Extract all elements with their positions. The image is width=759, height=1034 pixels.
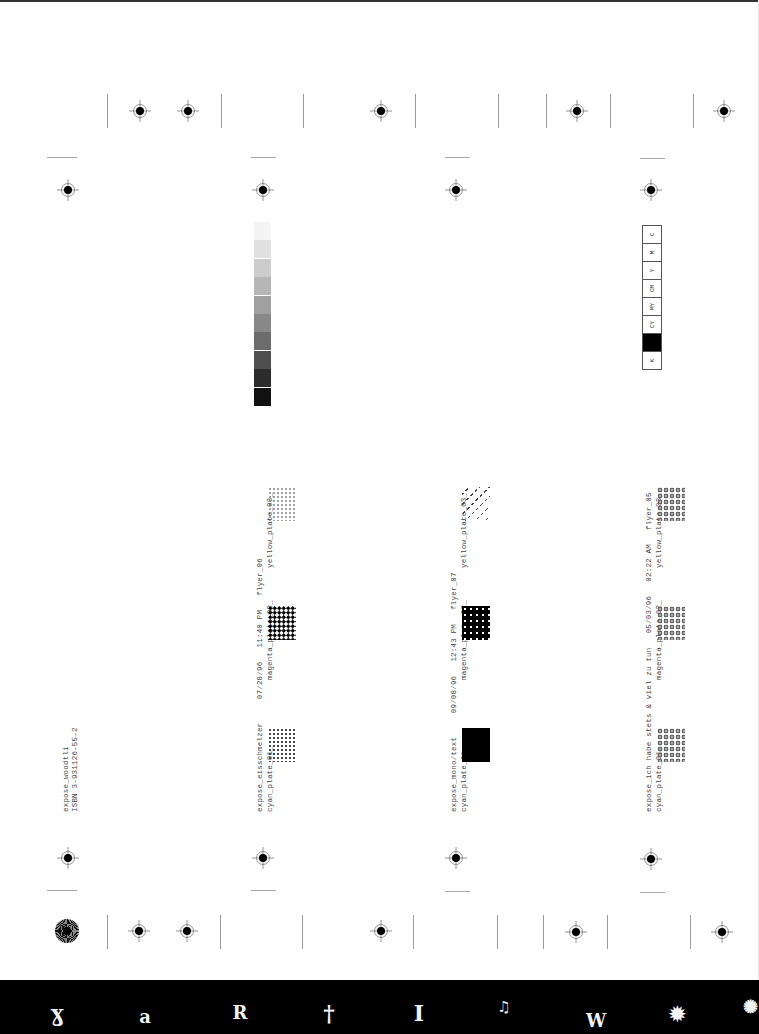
glyph-flower-icon: ✹ xyxy=(665,1002,689,1026)
glyph-flower-icon: ✺ xyxy=(738,996,759,1017)
registration-mark-icon xyxy=(565,921,587,943)
trim-line xyxy=(546,94,547,128)
registration-mark-icon xyxy=(370,100,392,122)
gray-ramp xyxy=(254,222,271,406)
cmyk-label: Y xyxy=(644,262,661,280)
trim-line xyxy=(302,915,303,949)
gray-step xyxy=(254,369,271,387)
cmyk-cell-cy: CY xyxy=(643,316,661,334)
trim-line xyxy=(607,915,608,949)
cmyk-label: M xyxy=(644,244,661,262)
trim-line xyxy=(47,157,77,158)
glyph-music-note-icon: ♫ xyxy=(492,998,516,1016)
registration-mark-icon xyxy=(713,100,735,122)
cmyk-label: CY xyxy=(644,316,661,334)
trim-line xyxy=(107,94,108,128)
trim-line xyxy=(251,890,276,891)
trim-line xyxy=(413,915,414,949)
cmyk-control-bar: C M Y CM MY CY K xyxy=(642,225,662,370)
registration-mark-icon xyxy=(176,920,198,942)
trim-line xyxy=(445,157,470,158)
registration-mark-icon xyxy=(711,921,733,943)
trim-line xyxy=(415,94,416,128)
cmyk-label: MY xyxy=(644,298,661,316)
cmyk-label: CM xyxy=(644,280,661,298)
registration-mark-icon xyxy=(445,179,467,201)
cmyk-cell-m: M xyxy=(643,244,661,262)
sheet-isbn: ISBN 3-931126-55-2 xyxy=(71,727,80,812)
trim-line xyxy=(220,915,221,949)
cyan-plate-swatch xyxy=(462,728,490,762)
sheet-top-border xyxy=(0,0,759,2)
flyer-info-line: expose_mono/text 09/08/96 12:43 PM flyer… xyxy=(450,572,459,812)
trim-line xyxy=(693,94,694,128)
glyph-w-icon: W xyxy=(584,1010,608,1031)
glyph-dagger-icon: † xyxy=(317,1000,341,1026)
yellow-plate-swatch xyxy=(657,487,685,521)
cmyk-cell-solid-black xyxy=(643,334,661,352)
magenta-plate-swatch xyxy=(462,606,490,640)
registration-mark-icon xyxy=(252,179,274,201)
trim-line xyxy=(640,158,665,159)
registration-mark-icon xyxy=(57,847,79,869)
trim-line xyxy=(47,890,77,891)
gray-step xyxy=(254,351,271,369)
yellow-plate-swatch xyxy=(462,487,490,521)
gray-step xyxy=(254,332,271,350)
trim-line xyxy=(445,891,470,892)
registration-mark-icon xyxy=(129,100,151,122)
magenta-plate-swatch xyxy=(268,606,296,640)
registration-mark-icon xyxy=(252,847,274,869)
registration-mark-icon xyxy=(57,179,79,201)
registration-mark-icon xyxy=(445,847,467,869)
flyer-info-line: expose_eisschmelzer 07/28/96 11:40 PM fl… xyxy=(256,558,265,812)
glyph-i-beam-icon: I xyxy=(407,1000,431,1026)
starburst-target-icon xyxy=(55,919,79,943)
trim-line xyxy=(640,892,665,893)
cmyk-cell-c: C xyxy=(643,226,661,244)
cmyk-cell-k: K xyxy=(643,352,661,369)
trim-line xyxy=(543,915,544,949)
cmyk-cell-y: Y xyxy=(643,262,661,280)
gray-step xyxy=(254,314,271,332)
registration-mark-icon xyxy=(640,179,662,201)
trim-line xyxy=(498,94,499,128)
trim-line xyxy=(221,94,222,128)
gray-step xyxy=(254,222,271,240)
registration-mark-icon xyxy=(370,920,392,942)
gray-step xyxy=(254,240,271,258)
trim-line xyxy=(690,915,691,949)
gray-step xyxy=(254,296,271,314)
magenta-plate-swatch xyxy=(657,606,685,640)
yellow-plate-swatch xyxy=(268,487,296,521)
trim-line xyxy=(251,157,276,158)
cyan-plate-swatch xyxy=(268,728,296,762)
gray-step xyxy=(254,277,271,295)
trim-line xyxy=(497,915,498,949)
gray-step xyxy=(254,259,271,277)
flyer-info-line: expose_ich habe stets & viel zu tun 05/0… xyxy=(645,492,654,812)
trim-line xyxy=(107,915,108,949)
glyph-r-icon: R xyxy=(228,1002,252,1023)
registration-mark-icon xyxy=(128,920,150,942)
cmyk-cell-cm: CM xyxy=(643,280,661,298)
trim-line xyxy=(303,94,304,128)
gray-step xyxy=(254,388,271,406)
trim-line xyxy=(610,94,611,128)
glyph-scribble-icon: ɣ xyxy=(45,1000,69,1026)
registration-mark-icon xyxy=(640,848,662,870)
sheet-title: expose_woodtli xyxy=(62,746,71,812)
cmyk-label: K xyxy=(644,352,661,370)
cmyk-cell-my: MY xyxy=(643,298,661,316)
glyph-a-icon: a xyxy=(133,1006,157,1027)
cyan-plate-swatch xyxy=(657,728,685,762)
cmyk-label: C xyxy=(644,226,661,244)
registration-mark-icon xyxy=(566,100,588,122)
footer-glyph-bar: ɣ a R † I ♫ W ✹ ✺ xyxy=(0,980,759,1034)
registration-mark-icon xyxy=(177,100,199,122)
